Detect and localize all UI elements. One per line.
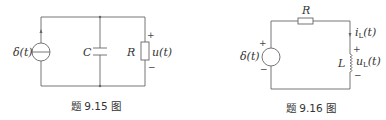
capacitor-icon	[93, 48, 107, 55]
resistor-label: R	[126, 46, 135, 59]
current-arrow-icon	[349, 33, 352, 37]
plus-sign: +	[353, 44, 361, 54]
plus-sign: +	[147, 30, 155, 40]
source-label: δ(t)	[13, 46, 33, 59]
inductor-icon	[350, 54, 352, 72]
current-label: iL(t)	[355, 26, 376, 40]
node-dot	[99, 85, 101, 87]
figure-9-16: R + − δ(t) iL(t) L + uL(t) − 题 9.16 图	[240, 4, 381, 114]
circuit-figures: δ(t) C R + u(t) − 题 9.15 图 R + − δ(t) iL…	[0, 0, 386, 120]
minus-sign: −	[148, 62, 156, 72]
node-dot	[99, 16, 101, 18]
voltage-label: uL(t)	[356, 55, 381, 69]
resistor-label: R	[301, 4, 310, 17]
source-plus-sign: +	[259, 38, 267, 48]
capacitor-label: C	[83, 46, 92, 59]
caption: 题 9.16 图	[286, 102, 336, 114]
caption: 题 9.15 图	[71, 100, 121, 112]
resistor-icon	[141, 42, 149, 60]
voltage-label: u(t)	[152, 46, 172, 59]
resistor-icon	[298, 18, 313, 24]
source-minus-sign: −	[260, 64, 268, 74]
minus-sign: −	[354, 70, 362, 80]
source-label: δ(t)	[240, 50, 260, 63]
inductor-label: L	[337, 57, 345, 70]
wire-loop	[271, 21, 350, 89]
figure-9-15: δ(t) C R + u(t) − 题 9.15 图	[13, 16, 172, 112]
